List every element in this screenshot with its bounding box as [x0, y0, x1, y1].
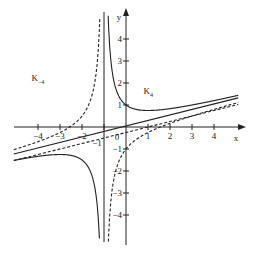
y-tick-label: −4 [112, 210, 122, 220]
x-tick-label: 2 [168, 131, 173, 141]
chart: −4−3−2−112344321−1−2−3−40xyK4K−4 [0, 0, 255, 257]
y-tick-label: 4 [118, 34, 123, 44]
x-tick-label: −2 [77, 131, 87, 141]
y-tick-label: −2 [112, 166, 122, 176]
x-axis-arrow [238, 124, 246, 130]
y-tick-label: −3 [112, 188, 122, 198]
curve-label-subscript: −4 [38, 79, 44, 85]
y-axis-arrow [123, 8, 129, 16]
x-tick-label: 1 [146, 131, 151, 141]
y-axis-label: y [117, 12, 122, 22]
curve-label: K−4 [31, 73, 44, 85]
curve-label-subscript: 4 [150, 92, 153, 98]
axes [14, 8, 246, 245]
x-tick-label: 4 [212, 131, 217, 141]
x-tick-label: 3 [190, 131, 195, 141]
y-tick-label: −1 [112, 144, 122, 154]
y-tick-label: 2 [118, 78, 123, 88]
y-tick-label: 3 [118, 56, 123, 66]
y-tick-label: 1 [118, 100, 123, 110]
curve-label: K4 [144, 86, 154, 98]
x-tick-label: −1 [92, 138, 102, 148]
origin-label: 0 [115, 132, 120, 142]
x-axis-label: x [234, 133, 239, 143]
labels: −4−3−2−112344321−1−2−3−40xyK4K−4 [31, 12, 238, 220]
x-tick-label: −4 [33, 131, 43, 141]
x-tick-label: −3 [55, 131, 65, 141]
